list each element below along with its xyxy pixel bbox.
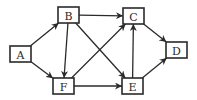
node-label: B xyxy=(64,10,72,23)
edge-e-to-c-arrow-icon xyxy=(133,24,134,78)
node-label: F xyxy=(60,81,68,94)
directed-graph: ABCDEF xyxy=(0,0,197,100)
edge-a-to-f-arrow-icon xyxy=(31,62,53,78)
edge-b-to-c-arrow-icon xyxy=(79,15,123,16)
node-c: C xyxy=(123,8,144,24)
node-e: E xyxy=(122,78,143,94)
edge-b-to-f-arrow-icon xyxy=(64,23,68,78)
node-a: A xyxy=(10,46,31,62)
node-label: E xyxy=(128,81,136,94)
node-b: B xyxy=(58,7,79,23)
edges-layer xyxy=(30,15,166,86)
edge-a-to-b-arrow-icon xyxy=(30,23,58,46)
node-label: A xyxy=(16,49,26,62)
edge-e-to-d-arrow-icon xyxy=(142,58,166,78)
node-label: C xyxy=(129,11,137,24)
edge-c-to-d-arrow-icon xyxy=(144,24,167,42)
node-d: D xyxy=(166,42,187,58)
node-f: F xyxy=(53,78,74,94)
node-label: D xyxy=(172,45,181,58)
